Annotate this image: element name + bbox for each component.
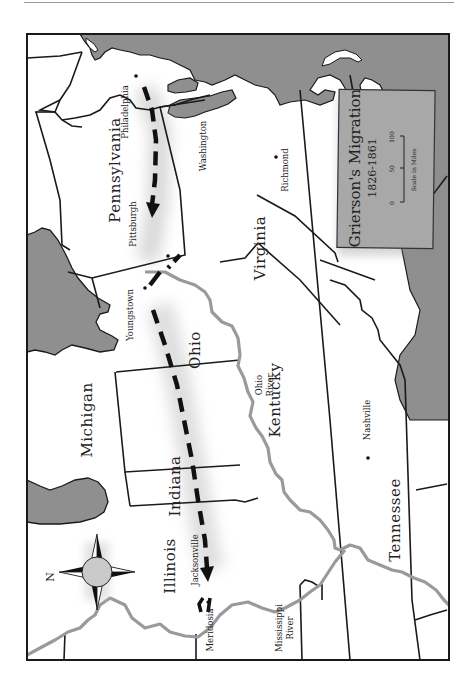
state-label-michigan: Michigan (78, 382, 96, 457)
scale-tick-50: 50 (388, 165, 395, 173)
city-dot-pittsburgh (166, 254, 170, 258)
legend-box: Grierson's Migration 1826-1861 0 50 100 … (337, 88, 435, 256)
city-label-jacksonville: Jacksonville (190, 534, 200, 586)
scale-tick-100: 100 (388, 131, 395, 143)
state-label-virginia: Virginia (251, 216, 269, 281)
river-label-ohio-line1: Ohio (254, 375, 264, 395)
city-dot-philadelphia (134, 74, 138, 78)
state-label-ohio: Ohio (186, 331, 204, 369)
scale-tick-0: 0 (388, 201, 395, 205)
legend-subtitle: 1826-1861 (366, 138, 379, 198)
compass-north-label: N (44, 572, 57, 582)
city-dot-youngstown (143, 286, 147, 290)
city-dot-nashville (366, 456, 370, 460)
city-label-meridosia: Meridosia (205, 608, 215, 651)
city-dot-meridosia (206, 600, 209, 603)
legend-title: Grierson's Migration (346, 88, 364, 247)
city-label-pittsburgh: Pittsburgh (128, 201, 138, 247)
state-label-indiana: Indiana (166, 455, 184, 516)
river-label-mississippi-line1: Mississippi (274, 604, 284, 652)
state-label-tennessee: Tennessee (386, 478, 404, 562)
city-label-washington: Washington (198, 120, 208, 171)
scale-label: Scale in Miles (410, 149, 417, 192)
city-label-youngstown: Youngstown (125, 288, 135, 342)
city-label-richmond: Richmond (280, 148, 290, 192)
river-label-mississippi-line2: River (285, 616, 295, 640)
migration-map: Grierson's Migration 1826-1861 0 50 100 … (0, 0, 472, 697)
city-dot-richmond (274, 155, 278, 159)
lake-michigan (27, 478, 108, 524)
state-label-illinois: Illinois (161, 538, 179, 594)
city-label-philadelphia: Philadelphia (120, 85, 130, 139)
river-label-ohio-line2: River (265, 373, 275, 397)
city-label-nashville: Nashville (362, 400, 372, 440)
